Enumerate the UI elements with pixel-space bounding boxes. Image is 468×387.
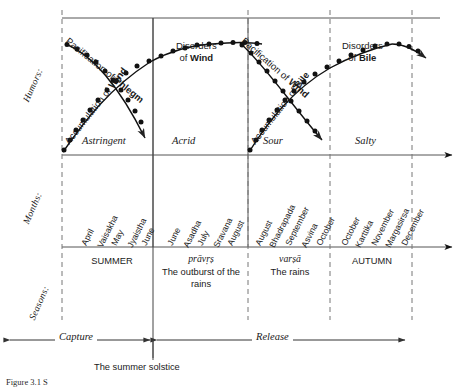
season-autumn: AUTUMN xyxy=(332,255,412,267)
taste-sour: Sour xyxy=(263,136,283,147)
season-autumn-name: AUTUMN xyxy=(352,256,392,266)
figure-caption: Figure 3.1 S xyxy=(6,378,48,387)
disorders-of-wind-line1: Disorders xyxy=(176,40,217,51)
flow-label-capture: Capture xyxy=(55,332,97,343)
season-summer: SUMMER xyxy=(72,255,152,267)
summer-solstice-label: The summer solstice xyxy=(94,363,180,372)
disorders-of-bile-line2-bold: Bile xyxy=(359,52,376,63)
season-varsa-sanskrit: varṣā xyxy=(279,253,301,264)
disorders-of-wind-line2-plain: of xyxy=(179,52,190,63)
season-varsa: varṣā The rains xyxy=(250,253,330,278)
season-summer-name: SUMMER xyxy=(91,256,132,266)
taste-acrid: Acrid xyxy=(172,136,195,147)
disorders-of-wind-line2-bold: Wind xyxy=(190,52,213,63)
taste-salty: Salty xyxy=(355,136,376,147)
flow-label-release: Release xyxy=(252,332,293,343)
disorders-of-bile-line2-plain: of xyxy=(348,52,359,63)
season-pravrs-sanskrit: prāvṛṣ xyxy=(188,253,214,264)
taste-astringent: Astringent xyxy=(82,136,126,147)
season-varsa-gloss: The rains xyxy=(271,267,310,277)
season-pravrs-gloss: The outburst of the rains xyxy=(162,267,240,289)
disorders-of-bile-line1: Disorders xyxy=(342,40,383,51)
dots-disorders-of-bile xyxy=(397,42,421,54)
label-disorders-of-bile: Disorders of Bile xyxy=(342,40,383,64)
season-pravrs: prāvṛṣ The outburst of the rains xyxy=(157,253,245,290)
label-disorders-of-wind: Disorders of Wind xyxy=(176,40,217,64)
